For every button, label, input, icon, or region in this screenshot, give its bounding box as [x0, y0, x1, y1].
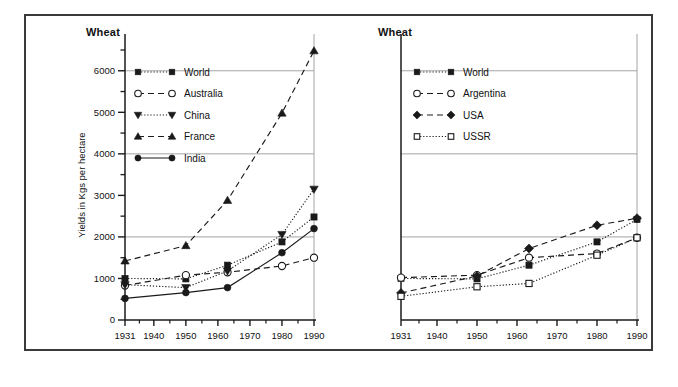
legend-label-argentina: Argentina: [463, 88, 506, 99]
legend-marker-australia: [169, 90, 176, 97]
legend-marker-ussr: [414, 134, 420, 140]
legend-label-india: India: [184, 153, 206, 164]
data-point-world: [526, 262, 532, 268]
y-tick-label: 5000: [94, 107, 115, 118]
y-tick-label: 2000: [94, 231, 115, 242]
y-tick-label: 0: [110, 314, 115, 325]
legend-marker-world: [448, 69, 454, 75]
legend-marker-world: [135, 69, 141, 75]
chart-outer-frame: Wheat 0100020003000400050006000193119401…: [24, 14, 653, 351]
data-point-ussr: [474, 284, 480, 290]
legend-label-ussr: USSR: [463, 131, 491, 142]
plot-svg-left: 0100020003000400050006000193119401950196…: [26, 16, 340, 353]
plot-svg-right: 1931194019501960197019801990WorldArgenti…: [365, 16, 655, 353]
legend-marker-ussr: [448, 134, 454, 140]
legend-marker-india: [169, 155, 175, 161]
y-tick-label: 4000: [94, 148, 115, 159]
data-point-world: [594, 239, 600, 245]
x-tick-label: 1980: [271, 330, 292, 341]
data-point-world: [122, 275, 128, 281]
data-point-ussr: [634, 235, 640, 241]
y-axis-title: Yields in Kgs per hectare: [76, 132, 87, 237]
series-line-ussr: [401, 238, 637, 297]
plot-area-right: 1931194019501960197019801990WorldArgenti…: [365, 16, 655, 353]
legend-marker-usa: [413, 111, 421, 119]
x-tick-label: 1940: [426, 330, 447, 341]
series-line-world: [401, 219, 637, 278]
legend-marker-australia: [135, 90, 142, 97]
x-tick-label: 1960: [207, 330, 228, 341]
chart-panel-right: Wheat 1931194019501960197019801990WorldA…: [365, 16, 655, 353]
x-tick-label: 1970: [239, 330, 260, 341]
x-tick-label: 1970: [546, 330, 567, 341]
data-point-france: [278, 109, 286, 116]
chart-panel-left: Wheat 0100020003000400050006000193119401…: [26, 16, 340, 353]
series-line-australia: [125, 258, 314, 286]
plot-area-left: 0100020003000400050006000193119401950196…: [26, 16, 340, 353]
data-point-world: [311, 214, 317, 220]
data-point-france: [182, 241, 190, 248]
data-point-usa: [525, 244, 534, 253]
legend-label-china: China: [184, 110, 211, 121]
x-tick-label: 1931: [114, 330, 135, 341]
data-point-world: [224, 262, 230, 268]
legend-marker-china: [134, 112, 142, 119]
data-point-argentina: [397, 274, 404, 281]
data-point-china: [278, 231, 286, 238]
legend-marker-india: [135, 155, 141, 161]
x-tick-label: 1950: [175, 330, 196, 341]
figure-root: Wheat 0100020003000400050006000193119401…: [0, 0, 678, 387]
data-point-india: [279, 249, 286, 256]
legend-marker-argentina: [448, 90, 455, 97]
data-point-usa: [593, 221, 602, 230]
y-tick-label: 1000: [94, 273, 115, 284]
data-point-china: [310, 186, 318, 193]
x-tick-label: 1960: [506, 330, 527, 341]
legend-label-australia: Australia: [184, 88, 223, 99]
data-point-france: [310, 47, 318, 54]
legend-marker-world: [414, 69, 420, 75]
data-point-ussr: [398, 293, 404, 299]
y-tick-label: 6000: [94, 65, 115, 76]
legend-label-world: World: [184, 67, 210, 78]
data-point-france: [223, 196, 231, 203]
x-tick-label: 1931: [390, 330, 411, 341]
x-tick-label: 1940: [143, 330, 164, 341]
data-point-argentina: [525, 254, 532, 261]
data-point-india: [311, 225, 318, 232]
series-line-world: [125, 217, 314, 279]
data-point-india: [224, 284, 231, 291]
data-point-ussr: [526, 280, 532, 286]
legend-marker-usa: [447, 111, 455, 119]
data-point-india: [182, 289, 189, 296]
data-point-ussr: [594, 252, 600, 258]
data-point-world: [279, 239, 285, 245]
y-tick-label: 3000: [94, 190, 115, 201]
legend-marker-world: [169, 69, 175, 75]
x-tick-label: 1980: [586, 330, 607, 341]
x-tick-label: 1990: [626, 330, 647, 341]
legend-marker-argentina: [414, 90, 421, 97]
series-line-usa: [401, 218, 637, 293]
data-point-australia: [310, 254, 317, 261]
legend-label-france: France: [184, 131, 216, 142]
data-point-australia: [182, 272, 189, 279]
x-tick-label: 1950: [466, 330, 487, 341]
data-point-india: [122, 295, 129, 302]
data-point-australia: [278, 262, 285, 269]
x-tick-label: 1990: [303, 330, 324, 341]
legend-label-world: World: [463, 67, 489, 78]
legend-label-usa: USA: [463, 110, 484, 121]
series-line-argentina: [401, 238, 637, 278]
